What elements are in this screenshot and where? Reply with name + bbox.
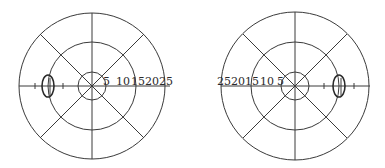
right-field-chart: 25 20 15 10 5 [217,12,370,160]
scale-label: 10 [116,75,130,88]
scale-label: 20 [145,75,159,88]
scale-label: 5 [103,75,110,88]
left-field-chart: 5 10 15 20 25 [19,13,173,159]
scale-label: 10 [260,75,274,88]
scale-label: 5 [277,75,284,88]
visual-field-diagram: 5 10 15 20 25 25 20 15 10 5 [0,0,385,168]
scale-label: 20 [231,75,245,88]
scale-label: 25 [159,75,173,88]
scale-label: 25 [217,75,231,88]
scale-label: 15 [131,75,145,88]
scale-label: 15 [245,75,259,88]
